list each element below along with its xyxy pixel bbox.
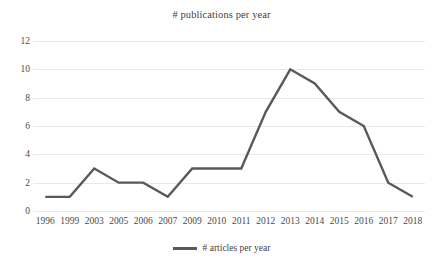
x-tick-label-2013: 2013 <box>281 215 300 227</box>
line-swatch-icon <box>173 247 197 250</box>
chart-title: # publications per year <box>0 9 443 20</box>
x-tick-label-2010: 2010 <box>207 215 226 227</box>
x-tick-label-2015: 2015 <box>330 215 349 227</box>
x-tick-label-2011: 2011 <box>232 215 251 227</box>
y-tick-label-0: 0 <box>0 206 30 216</box>
y-tick-label-8: 8 <box>0 93 30 103</box>
y-tick-label-12: 12 <box>0 36 30 46</box>
x-tick-label-2003: 2003 <box>85 215 104 227</box>
x-tick-label-2009: 2009 <box>183 215 202 227</box>
gridline-0 <box>33 211 425 212</box>
y-axis: 024681012 <box>0 41 30 211</box>
x-tick-label-1999: 1999 <box>60 215 79 227</box>
y-tick-label-2: 2 <box>0 178 30 188</box>
y-tick-label-10: 10 <box>0 64 30 74</box>
chart-legend: # articles per year <box>0 243 443 253</box>
x-tick-label-2017: 2017 <box>379 215 398 227</box>
x-tick-label-1996: 1996 <box>36 215 55 227</box>
x-axis: 1996199920032005200620072009201020112012… <box>33 215 425 231</box>
x-tick-label-2014: 2014 <box>305 215 324 227</box>
series-line-articles-per-year <box>33 41 425 211</box>
x-tick-label-2012: 2012 <box>256 215 275 227</box>
x-tick-label-2018: 2018 <box>403 215 422 227</box>
x-tick-label-2006: 2006 <box>134 215 153 227</box>
y-tick-label-6: 6 <box>0 121 30 131</box>
legend-label: # articles per year <box>203 243 271 253</box>
x-tick-label-2007: 2007 <box>158 215 177 227</box>
series-polyline <box>45 69 413 197</box>
plot-area <box>33 41 425 211</box>
x-tick-label-2005: 2005 <box>109 215 128 227</box>
y-tick-label-4: 4 <box>0 149 30 159</box>
publications-per-year-chart: # publications per year 024681012 199619… <box>0 0 443 269</box>
x-tick-label-2016: 2016 <box>354 215 373 227</box>
